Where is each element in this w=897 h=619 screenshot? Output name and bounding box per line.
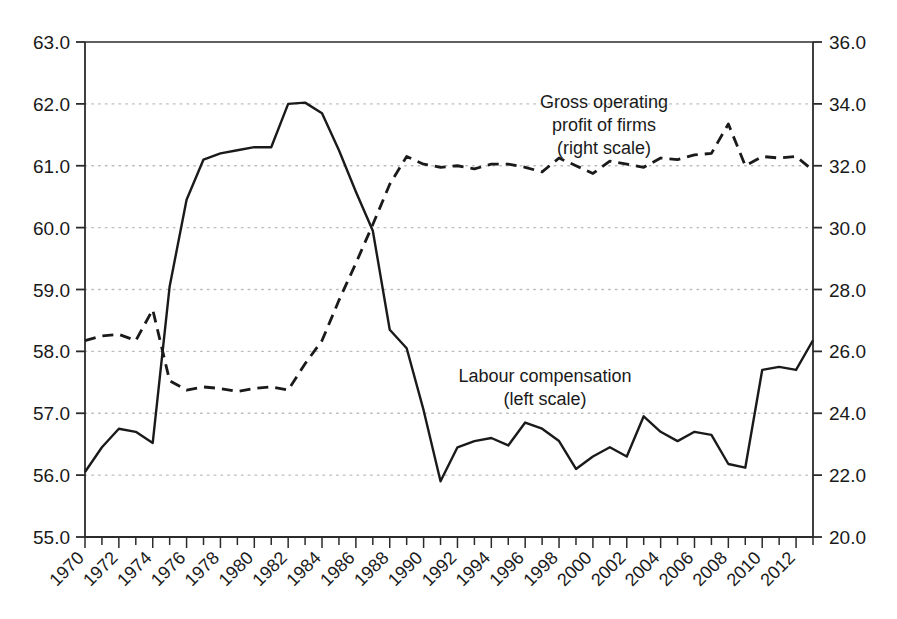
labour-compensation-label-line: (left scale) (503, 389, 586, 409)
chart-container: 55.056.057.058.059.060.061.062.063.0 20.… (0, 0, 897, 619)
left-axis-tick-label: 57.0 (33, 403, 70, 424)
left-axis-tick-label: 61.0 (33, 156, 70, 177)
right-axis-tick-label: 24.0 (829, 403, 866, 424)
right-axis-tick-label: 20.0 (829, 527, 866, 548)
left-axis-tick-label: 56.0 (33, 465, 70, 486)
gross-operating-profit-label-line: profit of firms (552, 115, 656, 135)
left-axis-tick-label: 59.0 (33, 280, 70, 301)
left-axis-tick-label: 55.0 (33, 527, 70, 548)
right-axis-tick-label: 26.0 (829, 341, 866, 362)
right-axis-tick-label: 30.0 (829, 218, 866, 239)
chart-background (0, 0, 897, 619)
right-axis-tick-label: 32.0 (829, 156, 866, 177)
left-axis-tick-label: 62.0 (33, 94, 70, 115)
right-axis-tick-label: 36.0 (829, 32, 866, 53)
gross-operating-profit-label: Gross operatingprofit of firms(right sca… (540, 92, 668, 158)
left-axis-tick-label: 58.0 (33, 341, 70, 362)
left-axis-tick-label: 63.0 (33, 32, 70, 53)
dual-axis-line-chart: 55.056.057.058.059.060.061.062.063.0 20.… (0, 0, 897, 619)
right-axis-tick-label: 34.0 (829, 94, 866, 115)
labour-compensation-label-line: Labour compensation (458, 366, 631, 386)
gross-operating-profit-label-line: Gross operating (540, 92, 668, 112)
gross-operating-profit-label-line: (right scale) (557, 138, 651, 158)
right-axis-tick-label: 28.0 (829, 280, 866, 301)
left-axis-tick-label: 60.0 (33, 218, 70, 239)
right-axis-tick-label: 22.0 (829, 465, 866, 486)
